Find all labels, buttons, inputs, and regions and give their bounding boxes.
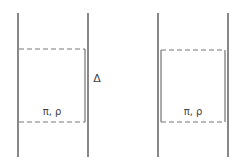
left-panel: π, ρ Δ (18, 13, 101, 157)
right-panel: π, ρ (158, 13, 228, 157)
gap-delta-label: Δ (93, 72, 101, 85)
left-region-label: π, ρ (43, 106, 62, 117)
right-region-label: π, ρ (184, 106, 203, 117)
diagram-canvas: π, ρ Δ π, ρ (0, 0, 238, 167)
